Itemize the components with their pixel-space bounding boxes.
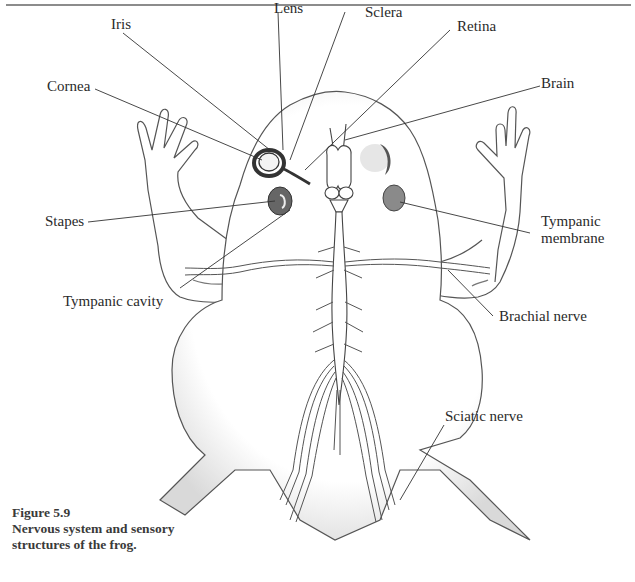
label-tympanic-membrane-line2: membrane	[541, 230, 604, 247]
right-ear-tympanum	[383, 185, 405, 211]
label-iris: Iris	[111, 16, 131, 33]
caption-line-2: structures of the frog.	[12, 537, 174, 553]
cornea-leader	[95, 89, 262, 160]
figure-number: Figure 5.9	[12, 505, 174, 521]
caption-line-1: Nervous system and sensory	[12, 521, 174, 537]
label-lens: Lens	[274, 0, 303, 17]
label-brachial-nerve: Brachial nerve	[499, 308, 587, 325]
label-cornea: Cornea	[47, 78, 90, 95]
label-brain: Brain	[541, 75, 574, 92]
label-tympanic-membrane: Tympanic membrane	[541, 213, 604, 247]
label-tympanic-membrane-line1: Tympanic	[541, 213, 604, 230]
label-tympanic-cavity: Tympanic cavity	[63, 293, 163, 310]
label-retina: Retina	[457, 18, 496, 35]
figure-caption: Figure 5.9 Nervous system and sensory st…	[12, 505, 174, 553]
label-stapes: Stapes	[45, 213, 84, 230]
label-sciatic-nerve: Sciatic nerve	[445, 408, 523, 425]
frog-diagram	[0, 0, 635, 582]
label-sclera: Sclera	[365, 4, 402, 21]
